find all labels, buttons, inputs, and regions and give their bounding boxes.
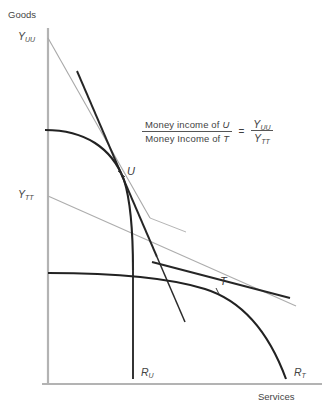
formula-denominator-text: Money Income of (145, 133, 223, 144)
y-uu-intercept-label: YUU (18, 31, 35, 42)
r-u-symbol: R (141, 366, 149, 378)
r-u-intercept-label: RU (141, 367, 154, 378)
curve-t (48, 273, 286, 379)
economics-indifference-diagram: Goods Services YUU YTT RU RT U T Money i… (0, 0, 333, 411)
formula-rhs-den-subscript: TT (261, 138, 270, 145)
r-u-subscript: U (149, 372, 154, 379)
formula-left-fraction: Money income of U Money Income of T (142, 119, 232, 144)
diagram-canvas (0, 0, 333, 411)
formula-right-fraction: YUU YTT (250, 118, 274, 144)
formula-rhs-denominator: YTT (251, 130, 273, 144)
formula-rhs-num-subscript: UU (260, 124, 270, 131)
formula-denominator: Money Income of T (142, 131, 232, 144)
money-income-ratio-formula: Money income of U Money Income of T = YU… (142, 118, 274, 144)
budget-line-uu-lower (150, 218, 186, 232)
x-axis-title: Services (258, 392, 294, 402)
y-axis-title: Goods (8, 10, 36, 20)
y-tt-intercept-label: YTT (18, 189, 34, 200)
y-uu-subscript: UU (25, 36, 35, 43)
y-tt-subscript: TT (25, 194, 34, 201)
formula-numerator-text: Money income of (145, 119, 222, 130)
r-t-subscript: T (302, 372, 306, 379)
formula-numerator-var: U (222, 119, 229, 130)
y-uu-symbol: Y (18, 30, 25, 42)
formula-equals-sign: = (238, 126, 244, 137)
r-t-symbol: R (294, 366, 302, 378)
formula-numerator: Money income of U (142, 119, 232, 131)
y-tt-symbol: Y (18, 188, 25, 200)
formula-rhs-numerator: YUU (250, 118, 274, 130)
budget-line-uu (48, 38, 150, 218)
point-label-t: T (220, 276, 227, 287)
formula-denominator-var: T (223, 133, 229, 144)
point-label-u: U (127, 166, 135, 177)
r-t-intercept-label: RT (294, 367, 306, 378)
